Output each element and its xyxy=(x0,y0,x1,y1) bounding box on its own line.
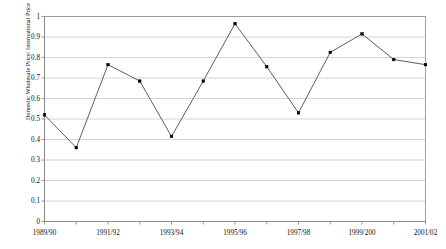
x-axis-tick-labels: 1989/901991/921993/941995/961997/981999/… xyxy=(0,0,446,249)
x-tick-label: 1999/200 xyxy=(348,229,375,237)
x-tick-label: 1991/92 xyxy=(96,229,120,237)
x-tick-label: 1993/94 xyxy=(160,229,184,237)
x-tick-label: 2001/02 xyxy=(414,229,438,237)
x-tick-label: 1989/90 xyxy=(33,229,57,237)
x-tick-label: 1995/96 xyxy=(223,229,247,237)
x-tick-label: 1997/98 xyxy=(287,229,311,237)
line-chart: Domestic Wholesale Price/ International … xyxy=(0,0,446,249)
